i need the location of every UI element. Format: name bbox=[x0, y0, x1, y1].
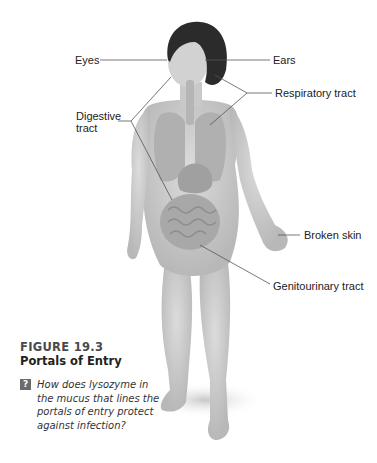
figure-title: Portals of Entry bbox=[20, 354, 160, 368]
left-lung bbox=[154, 112, 185, 181]
label-digestive-tract-line2: tract bbox=[76, 122, 121, 134]
label-eyes: Eyes bbox=[75, 54, 99, 66]
portals-of-entry-figure: Eyes Ears Respiratory tract Digestive tr… bbox=[0, 0, 377, 463]
figure-question: ? How does lysozyme in the mucus that li… bbox=[20, 378, 160, 432]
trachea bbox=[186, 80, 194, 125]
question-text: How does lysozyme in the mucus that line… bbox=[37, 378, 160, 432]
label-broken-skin: Broken skin bbox=[304, 229, 361, 241]
label-digestive-tract-line1: Digestive bbox=[76, 110, 121, 122]
label-digestive-tract: Digestive tract bbox=[76, 110, 121, 134]
right-arm bbox=[230, 108, 288, 251]
figure-caption: FIGURE 19.3 Portals of Entry ? How does … bbox=[20, 340, 160, 432]
label-respiratory-tract: Respiratory tract bbox=[275, 87, 356, 99]
label-ears: Ears bbox=[273, 54, 296, 66]
question-mark-icon: ? bbox=[20, 379, 31, 390]
figure-number: FIGURE 19.3 bbox=[20, 340, 160, 354]
label-genitourinary-tract: Genitourinary tract bbox=[273, 280, 363, 292]
